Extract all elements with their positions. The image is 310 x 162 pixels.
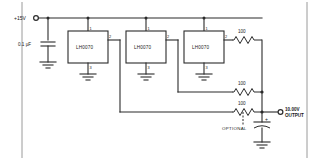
ic3-pin3-label: 3 — [206, 65, 208, 70]
ic1-pin3-label: 3 — [90, 65, 92, 70]
decoupling-capacitor — [40, 42, 56, 68]
resistor2-value-label: 100 — [238, 81, 246, 86]
ic3-pin2-label: 2 — [225, 34, 227, 39]
resistor-3[interactable] — [232, 109, 262, 116]
resistor3-value-label: 100 — [238, 101, 246, 106]
supply-rail-label: +15V — [14, 15, 26, 21]
output-net — [260, 92, 283, 122]
resistor3-zigzag — [232, 109, 262, 116]
output-voltage-label: 10.00V — [285, 107, 300, 112]
ic2-pin1-label: 1 — [148, 26, 150, 31]
ground-symbol-ic1 — [80, 74, 96, 80]
resistor1-zigzag — [232, 37, 262, 44]
junction-dot-cap — [47, 17, 50, 20]
junction-dot-ic2 — [145, 17, 148, 20]
ic1-label: LH0070 — [76, 45, 94, 50]
capacitor-polarity-label: + — [265, 116, 268, 122]
ic2-label: LH0070 — [134, 45, 152, 50]
output-text-label: OUTPUT — [285, 113, 304, 118]
ic1-pin2-label: 2 — [109, 34, 111, 39]
junction-dot-ic1 — [87, 17, 90, 20]
ground-symbol-ic3 — [196, 74, 212, 80]
schematic-diagram: +15V 0.1 µF LH0070 LH0070 LH0070 1 2 3 1… — [0, 0, 310, 162]
supply-terminal[interactable] — [34, 16, 39, 21]
output-terminal[interactable] — [278, 110, 283, 115]
decoupling-cap-label: 0.1 µF — [18, 42, 31, 47]
ground-symbol-cap — [40, 62, 56, 68]
resistor-1[interactable] — [232, 37, 262, 93]
resistor2-zigzag — [232, 89, 262, 96]
junction-dot-ic3 — [203, 17, 206, 20]
ic3-label: LH0070 — [192, 45, 210, 50]
circuit-canvas: +15V 0.1 µF LH0070 LH0070 LH0070 1 2 3 1… — [0, 0, 310, 162]
optional-label: OPTIONAL — [222, 126, 247, 131]
ic2-pin2-label: 2 — [167, 34, 169, 39]
ic2-pin3-label: 3 — [148, 65, 150, 70]
resistor1-value-label: 100 — [238, 29, 246, 34]
ground-symbol-output-cap — [254, 142, 270, 148]
ground-symbol-ic2 — [138, 74, 154, 80]
ic3-pin1-label: 1 — [206, 26, 208, 31]
ic1-pin1-label: 1 — [90, 26, 92, 31]
resistor-2[interactable] — [232, 89, 264, 96]
